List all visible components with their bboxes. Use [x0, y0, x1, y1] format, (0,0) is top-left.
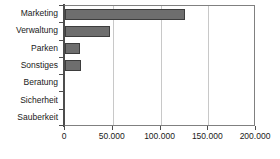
y-axis-labels: Marketing Verwaltung Parken Sonstiges Be…	[0, 5, 62, 126]
x-axis-tick-label: 150.000	[192, 131, 223, 141]
tick-mark	[64, 126, 65, 130]
bar-row	[65, 108, 254, 125]
tick-mark	[160, 126, 161, 130]
x-axis-tick-label: 50.000	[99, 131, 125, 141]
bar-marketing	[65, 9, 185, 20]
x-axis-labels: 050.000100.000150.000200.000	[0, 131, 280, 145]
y-axis-tick-label: Sicherheit	[20, 96, 58, 105]
bar-row	[65, 40, 254, 57]
bar-sonstiges	[65, 60, 81, 71]
y-axis-tick-sonstiges: Sonstiges	[0, 57, 62, 74]
bar-row	[65, 57, 254, 74]
y-axis-tick-label: Parken	[31, 44, 58, 53]
x-axis-tick-label: 0	[62, 131, 67, 141]
plot-area	[64, 5, 255, 126]
y-axis-tick-label: Sonstiges	[21, 61, 58, 70]
y-axis-tick-label: Verwaltung	[16, 26, 58, 35]
bar-chart: Marketing Verwaltung Parken Sonstiges Be…	[0, 0, 280, 159]
y-axis-tick-parken: Parken	[0, 40, 62, 57]
bar-row	[65, 23, 254, 40]
y-axis-tick-marketing: Marketing	[0, 5, 62, 22]
x-axis-tick-label: 100.000	[144, 131, 175, 141]
y-axis-tick-verwaltung: Verwaltung	[0, 22, 62, 39]
bar-verwaltung	[65, 26, 110, 37]
y-axis-tick-sicherheit: Sicherheit	[0, 91, 62, 108]
y-axis-tick-beratung: Beratung	[0, 74, 62, 91]
bar-row	[65, 6, 254, 23]
y-axis-tick-label: Marketing	[21, 9, 58, 18]
y-axis-tick-label: Sauberkeit	[17, 113, 58, 122]
bar-row	[65, 91, 254, 108]
y-axis-tick-label: Beratung	[24, 78, 59, 87]
y-axis-tick-sauberkeit: Sauberkeit	[0, 109, 62, 126]
bar-row	[65, 74, 254, 91]
tick-mark	[207, 126, 208, 130]
bar-series	[65, 6, 254, 125]
tick-mark	[112, 126, 113, 130]
bar-parken	[65, 43, 80, 54]
tick-mark	[255, 126, 256, 130]
x-axis-tick-label: 200.000	[240, 131, 271, 141]
